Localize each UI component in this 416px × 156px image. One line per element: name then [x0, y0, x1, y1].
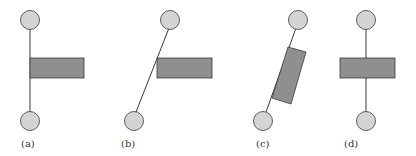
bottom-circle — [357, 112, 376, 131]
top-circle — [289, 11, 308, 30]
panel-label: (c) — [256, 138, 270, 149]
bottom-circle — [21, 112, 40, 131]
bottom-circle — [254, 112, 273, 131]
diagram: (a) (b) (c) (d) — [0, 0, 416, 156]
block — [272, 47, 306, 104]
top-circle — [21, 11, 40, 30]
bottom-circle — [125, 112, 144, 131]
panel-label: (d) — [344, 138, 358, 149]
panel-c: (c) — [254, 11, 308, 150]
block — [157, 58, 212, 78]
panel-label: (b) — [121, 138, 135, 149]
top-circle — [161, 11, 180, 30]
panel-a: (a) — [21, 11, 85, 150]
block — [30, 58, 84, 78]
panel-b: (b) — [121, 11, 212, 150]
block — [340, 58, 395, 78]
panel-label: (a) — [21, 138, 35, 149]
panel-d: (d) — [340, 11, 395, 150]
top-circle — [357, 11, 376, 30]
